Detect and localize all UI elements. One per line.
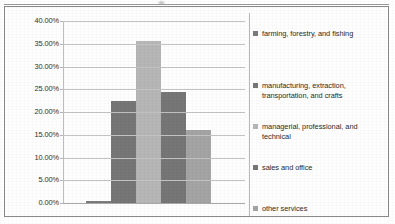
- y-axis-tick: [60, 135, 63, 136]
- legend-swatch-icon: [253, 124, 258, 129]
- y-axis-tick-label: 5.00%: [5, 176, 59, 184]
- y-axis-tick-label: 35.00%: [5, 40, 59, 48]
- legend-swatch-icon: [253, 206, 258, 211]
- y-axis-tick: [60, 203, 63, 204]
- y-axis-tick: [60, 44, 63, 45]
- y-axis-labels: 40.00%35.00%30.00%25.00%20.00%15.00%10.0…: [5, 7, 61, 216]
- plot-area: 40.00%35.00%30.00%25.00%20.00%15.00%10.0…: [5, 7, 245, 216]
- y-axis-tick-label: 25.00%: [5, 85, 59, 93]
- legend-swatch-icon: [253, 165, 258, 170]
- legend-item-label: manufacturing, extraction, transportatio…: [262, 81, 385, 100]
- legend-item-label: other services: [262, 204, 307, 214]
- y-axis-tick: [60, 158, 63, 159]
- legend-item[interactable]: managerial, professional, and technical: [253, 122, 385, 141]
- gridline: [63, 44, 245, 45]
- legend-item[interactable]: manufacturing, extraction, transportatio…: [253, 81, 385, 100]
- legend-swatch-icon: [253, 31, 258, 36]
- y-axis-tick: [60, 180, 63, 181]
- bar: [161, 92, 186, 203]
- gridline: [63, 112, 245, 113]
- gridline: [63, 203, 245, 204]
- legend-item[interactable]: sales and office: [253, 163, 385, 173]
- legend-item-label: farming, forestry, and fishing: [262, 29, 353, 39]
- bar: [186, 130, 211, 203]
- legend-item[interactable]: other services: [253, 204, 385, 214]
- gridline: [63, 89, 245, 90]
- legend-item[interactable]: farming, forestry, and fishing: [253, 29, 385, 39]
- legend-swatch-icon: [253, 83, 258, 88]
- y-axis-tick-label: 20.00%: [5, 108, 59, 116]
- y-axis-tick: [60, 21, 63, 22]
- legend-item-label: managerial, professional, and technical: [262, 122, 385, 141]
- gridline: [63, 67, 245, 68]
- gridline: [63, 135, 245, 136]
- bar: [111, 101, 136, 203]
- plot-canvas: [63, 21, 245, 203]
- y-axis-tick-label: 15.00%: [5, 131, 59, 139]
- chart-legend: farming, forestry, and fishingmanufactur…: [253, 15, 385, 211]
- legend-divider: [249, 13, 250, 216]
- chart-frame: 40.00%35.00%30.00%25.00%20.00%15.00%10.0…: [4, 6, 389, 217]
- legend-item-label: sales and office: [262, 163, 312, 173]
- y-axis-tick-label: 30.00%: [5, 63, 59, 71]
- y-axis-tick: [60, 112, 63, 113]
- gridline: [63, 180, 245, 181]
- y-axis-tick-label: 0.00%: [5, 199, 59, 207]
- y-axis-tick: [60, 67, 63, 68]
- gridline: [63, 158, 245, 159]
- y-axis-tick-label: 40.00%: [5, 17, 59, 25]
- y-axis-tick: [60, 89, 63, 90]
- frame-top-edge: [4, 4, 389, 5]
- gridline: [63, 21, 245, 22]
- y-axis-tick-label: 10.00%: [5, 154, 59, 162]
